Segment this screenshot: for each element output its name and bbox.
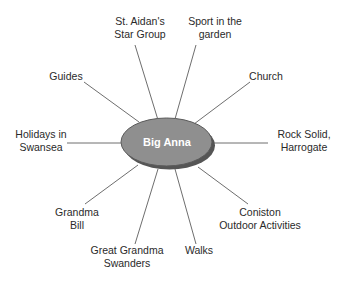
label-sport: Sport in the garden bbox=[188, 15, 242, 41]
line-sport bbox=[175, 45, 196, 119]
center-label: Big Anna bbox=[143, 136, 191, 148]
label-church: Church bbox=[249, 70, 283, 83]
line-guides bbox=[84, 82, 139, 122]
label-grandma-bill: Grandma Bill bbox=[55, 206, 99, 232]
line-grandma-bill bbox=[85, 165, 138, 204]
line-walks bbox=[175, 169, 196, 244]
label-guides: Guides bbox=[49, 70, 82, 83]
line-st-aidans bbox=[135, 45, 158, 120]
label-walks: Walks bbox=[185, 244, 213, 257]
line-church bbox=[194, 82, 250, 124]
label-coniston: Coniston Outdoor Activities bbox=[219, 206, 301, 232]
label-rock-solid: Rock Solid, Harrogate bbox=[277, 128, 330, 154]
label-great-grandma: Great Grandma Swanders bbox=[91, 244, 164, 270]
mind-map: Big Anna St. Aidan's Star Group Sport in… bbox=[0, 0, 345, 287]
label-holidays: Holidays in Swansea bbox=[15, 128, 66, 154]
label-st-aidans: St. Aidan's Star Group bbox=[114, 15, 165, 41]
line-great-grandma bbox=[135, 169, 158, 244]
line-coniston bbox=[198, 167, 248, 204]
